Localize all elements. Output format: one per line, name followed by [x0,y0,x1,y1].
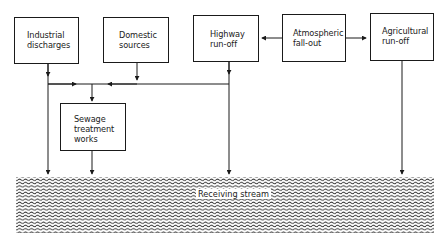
receiving-stream [16,177,434,233]
node-atmospheric-fall-out-label: Atmospheric fall-out [293,28,343,48]
node-highway-run-off-label: Highway run-off [210,29,245,49]
node-industrial-discharges-label: Industrial discharges [27,30,70,50]
node-domestic-sources-label: Domestic sources [119,30,157,50]
node-agricultural-run-off-label: Agricultural run-off [382,26,428,46]
receiving-stream-label: Receiving stream [196,189,271,199]
node-sewage-treatment-works-label: Sewage treatment works [74,114,114,144]
